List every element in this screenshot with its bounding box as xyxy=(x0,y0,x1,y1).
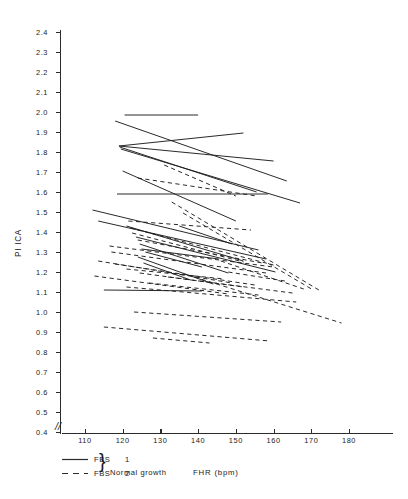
segment xyxy=(138,240,262,263)
y-tick-label-1.7: 1.7 xyxy=(22,168,48,177)
segment xyxy=(172,202,319,290)
y-tick-2.4 xyxy=(56,32,61,33)
segment xyxy=(130,228,273,265)
segment xyxy=(111,252,266,273)
segment xyxy=(119,133,243,146)
legend-item-fbs1: FBS 1 xyxy=(62,452,130,466)
y-tick-label-0.7: 0.7 xyxy=(22,368,48,377)
y-tick-1.3 xyxy=(56,252,61,253)
y-tick-label-1.0: 1.0 xyxy=(22,308,48,317)
y-tick-label-2.3: 2.3 xyxy=(22,48,48,57)
y-tick-1.9 xyxy=(56,132,61,133)
segment xyxy=(132,233,243,262)
segment xyxy=(140,244,229,273)
segment xyxy=(136,237,276,272)
x-tick-label-170: 170 xyxy=(304,436,318,445)
segment xyxy=(142,249,219,259)
segment xyxy=(94,276,228,294)
segment xyxy=(138,178,257,196)
y-tick-label-1.3: 1.3 xyxy=(22,248,48,257)
x-tick-160 xyxy=(274,429,275,434)
x-tick-label-110: 110 xyxy=(78,436,92,445)
y-tick-0.4 xyxy=(56,432,61,433)
y-tick-label-0.4: 0.4 xyxy=(22,428,48,437)
legend-solid-line-icon xyxy=(62,455,88,463)
segment xyxy=(98,221,266,259)
x-tick-label-160: 160 xyxy=(266,436,280,445)
x-tick-label-140: 140 xyxy=(191,436,205,445)
y-tick-1.0 xyxy=(56,312,61,313)
x-tick-150 xyxy=(236,429,237,434)
segment xyxy=(153,338,210,343)
y-tick-1.6 xyxy=(56,192,61,193)
segment xyxy=(126,269,224,279)
legend-number-fbs1: 1 xyxy=(125,455,130,464)
y-tick-label-1.6: 1.6 xyxy=(22,188,48,197)
legend-label-fbs1: FBS xyxy=(94,455,120,464)
segment xyxy=(134,312,281,322)
segment xyxy=(179,226,232,244)
x-tick-110 xyxy=(85,429,86,434)
segment xyxy=(115,264,255,285)
segment xyxy=(128,221,251,230)
x-tick-180 xyxy=(349,429,350,434)
y-tick-2.0 xyxy=(56,112,61,113)
x-tick-140 xyxy=(198,429,199,434)
y-tick-0.6 xyxy=(56,392,61,393)
legend-group-label: Normal growth xyxy=(110,468,167,477)
segment xyxy=(115,121,287,181)
y-tick-label-1.4: 1.4 xyxy=(22,228,48,237)
x-tick-label-130: 130 xyxy=(153,436,167,445)
y-tick-label-2.0: 2.0 xyxy=(22,108,48,117)
segment xyxy=(126,226,243,261)
y-axis-title: PI ICA xyxy=(14,229,23,257)
segment xyxy=(183,213,313,290)
y-tick-2.1 xyxy=(56,92,61,93)
y-tick-1.8 xyxy=(56,152,61,153)
segment xyxy=(98,261,232,283)
x-tick-label-150: 150 xyxy=(229,436,243,445)
segment xyxy=(104,290,202,291)
y-tick-label-1.1: 1.1 xyxy=(22,288,48,297)
y-tick-label-0.6: 0.6 xyxy=(22,388,48,397)
segment xyxy=(123,171,236,221)
segment xyxy=(120,147,257,192)
legend-dashed-line-icon xyxy=(62,469,88,477)
series-fbs-1 xyxy=(93,115,300,291)
series-fbs-2 xyxy=(94,165,341,343)
y-tick-2.3 xyxy=(56,52,61,53)
x-axis-title: FHR (bpm) xyxy=(193,468,239,477)
y-tick-label-2.4: 2.4 xyxy=(22,28,48,37)
y-tick-0.8 xyxy=(56,352,61,353)
segment xyxy=(93,210,259,250)
segment xyxy=(143,263,190,280)
segment xyxy=(119,146,274,161)
segment xyxy=(126,287,296,302)
y-tick-0.9 xyxy=(56,332,61,333)
legend-brace-icon: } xyxy=(99,451,106,471)
x-tick-label-180: 180 xyxy=(342,436,356,445)
segment xyxy=(121,149,300,203)
segment xyxy=(168,277,292,293)
segment xyxy=(138,257,213,284)
y-tick-0.7 xyxy=(56,372,61,373)
segment xyxy=(140,273,244,287)
segment xyxy=(110,246,274,267)
x-tick-130 xyxy=(160,429,161,434)
y-tick-label-1.2: 1.2 xyxy=(22,268,48,277)
segment xyxy=(228,272,285,281)
segment xyxy=(221,261,304,289)
y-tick-label-0.8: 0.8 xyxy=(22,348,48,357)
x-tick-label-120: 120 xyxy=(116,436,130,445)
x-tick-170 xyxy=(311,429,312,434)
y-tick-1.2 xyxy=(56,272,61,273)
y-tick-1.1 xyxy=(56,292,61,293)
y-tick-1.7 xyxy=(56,172,61,173)
axis-break-icon: // xyxy=(55,421,61,432)
y-tick-1.4 xyxy=(56,232,61,233)
y-tick-label-2.1: 2.1 xyxy=(22,88,48,97)
segment xyxy=(104,327,270,341)
y-tick-label-1.5: 1.5 xyxy=(22,208,48,217)
y-tick-label-0.5: 0.5 xyxy=(22,408,48,417)
segment xyxy=(149,283,258,295)
